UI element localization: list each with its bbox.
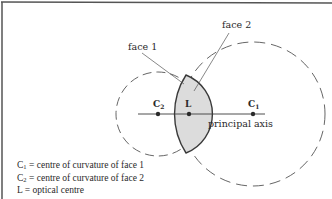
frame-top-border xyxy=(1,2,332,3)
face-2-leader xyxy=(194,33,229,91)
diagram-frame: face 1 face 2 C2 L C1 principal axis C1 … xyxy=(0,0,332,199)
c1-label: C1 xyxy=(248,99,259,110)
l-label: L xyxy=(185,99,192,109)
c1-point xyxy=(251,112,255,116)
principal-axis-label: principal axis xyxy=(208,118,273,129)
legend: C1 = centre of curvature of face 1 C2 = … xyxy=(17,160,144,197)
face-1-leader xyxy=(142,53,184,84)
legend-item-c2: C2 = centre of curvature of face 2 xyxy=(17,173,144,186)
face-1-label: face 1 xyxy=(128,41,157,52)
c2-label: C2 xyxy=(153,99,164,110)
legend-item-c1: C1 = centre of curvature of face 1 xyxy=(17,160,144,173)
c2-point xyxy=(156,112,160,116)
face-2-label: face 2 xyxy=(222,19,251,30)
l-point xyxy=(187,112,191,116)
legend-item-l: L = optical centre xyxy=(17,185,144,197)
